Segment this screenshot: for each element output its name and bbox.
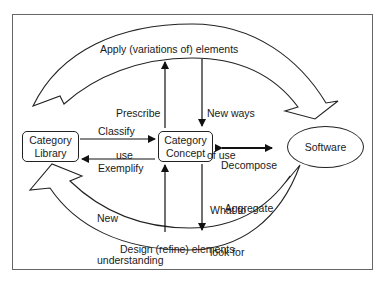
- apply-elements-label: Apply (variations of) elements: [100, 43, 238, 56]
- category-concept-line2: Concept: [164, 147, 207, 160]
- category-library-node: Category Library: [22, 131, 79, 162]
- prescribe-use-line1: Prescribe: [116, 107, 160, 120]
- decompose-label: Decompose: [221, 159, 277, 172]
- category-library-line1: Category: [29, 134, 72, 147]
- category-concept-node: Category Concept: [158, 131, 213, 162]
- category-library-line2: Library: [29, 147, 72, 160]
- what-to-look-line1: What to: [210, 204, 246, 217]
- new-understanding-line1: New: [97, 212, 164, 225]
- apply-elements-arrow: [33, 24, 338, 119]
- prescribe-use-line2: use: [116, 149, 160, 162]
- new-understanding-line2: understanding: [97, 254, 164, 267]
- what-to-look-line2: look for: [210, 246, 246, 259]
- new-ways-line1: New ways: [207, 107, 255, 120]
- prescribe-use-label: Prescribe use: [116, 81, 160, 175]
- category-concept-line1: Category: [164, 134, 207, 147]
- what-to-look-for-label: What to look for: [210, 178, 246, 272]
- software-label: Software: [305, 141, 346, 153]
- software-node: Software: [287, 126, 364, 168]
- new-understanding-label: New understanding: [97, 186, 164, 280]
